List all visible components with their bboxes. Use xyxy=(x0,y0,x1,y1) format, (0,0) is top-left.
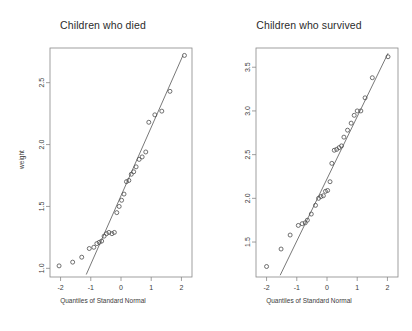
y-tick-label-right: 2.5 xyxy=(245,150,252,160)
data-point xyxy=(160,109,164,113)
x-axis-title-left: Quantiles of Standard Normal xyxy=(0,297,206,304)
data-point xyxy=(117,204,121,208)
data-point xyxy=(349,121,353,125)
qq-reference-line-right xyxy=(280,53,388,275)
data-point xyxy=(265,265,269,269)
data-point xyxy=(296,223,300,227)
x-axis-title-right: Quantiles of Standard Normal xyxy=(206,297,412,304)
x-tick-label-right: 2 xyxy=(385,284,389,291)
y-tick-label-left: 1.0 xyxy=(39,263,46,273)
data-point xyxy=(71,260,75,264)
data-point xyxy=(330,161,334,165)
y-tick-label-right: 3.0 xyxy=(245,106,252,116)
data-point xyxy=(80,255,84,259)
data-point xyxy=(370,76,374,80)
data-point xyxy=(328,180,332,184)
data-point xyxy=(134,165,138,169)
x-tick-label-left: 2 xyxy=(179,284,183,291)
x-tick-label-right: -1 xyxy=(294,284,300,291)
data-point xyxy=(132,170,136,174)
data-point xyxy=(87,247,91,251)
data-point xyxy=(115,211,119,215)
y-tick-label-left: 2.5 xyxy=(39,78,46,88)
data-point xyxy=(57,264,61,268)
data-point xyxy=(288,233,292,237)
data-point xyxy=(182,53,186,57)
data-point xyxy=(140,155,144,159)
x-tick-label-right: 1 xyxy=(355,284,359,291)
qq-plot-figure: Children who died -2-10121.01.52.02.5 Qu… xyxy=(0,0,412,331)
data-point xyxy=(342,135,346,139)
panel-children-who-died: Children who died -2-10121.01.52.02.5 Qu… xyxy=(0,0,206,331)
data-point xyxy=(352,113,356,117)
data-point xyxy=(92,245,96,249)
panel-children-who-survived: Children who survived -2-10121.52.02.53.… xyxy=(206,0,412,331)
x-tick-label-left: 0 xyxy=(119,284,123,291)
data-point xyxy=(346,128,350,132)
data-point xyxy=(321,194,325,198)
x-tick-label-right: -2 xyxy=(263,284,269,291)
y-tick-label-right: 2.0 xyxy=(245,193,252,203)
plot-area-right: -2-10121.52.02.53.03.5 xyxy=(206,0,412,331)
plot-frame-right xyxy=(256,48,398,277)
data-point xyxy=(122,192,126,196)
x-tick-label-left: -2 xyxy=(57,284,63,291)
y-tick-label-right: 1.5 xyxy=(245,237,252,247)
data-point xyxy=(279,247,283,251)
x-tick-label-left: 1 xyxy=(149,284,153,291)
y-tick-label-left: 2.0 xyxy=(39,140,46,150)
y-tick-label-left: 1.5 xyxy=(39,201,46,211)
data-point xyxy=(153,113,157,117)
y-axis-title-left: weight xyxy=(18,143,25,177)
data-point xyxy=(168,89,172,93)
x-tick-label-left: -1 xyxy=(88,284,94,291)
data-point xyxy=(120,198,124,202)
plot-area-left: -2-10121.01.52.02.5 xyxy=(0,0,206,331)
data-point xyxy=(144,150,148,154)
y-tick-label-right: 3.5 xyxy=(245,62,252,72)
data-point xyxy=(332,148,336,152)
data-point xyxy=(147,120,151,124)
x-tick-label-right: 0 xyxy=(325,284,329,291)
